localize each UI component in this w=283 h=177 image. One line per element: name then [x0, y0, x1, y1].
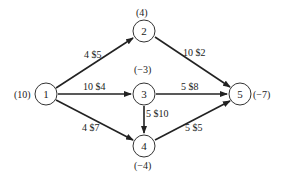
network-diagram: 4 $5 10 $4 4 $7 10 $2 5 $8 5 $10 5 $5 1 …	[0, 0, 283, 177]
node-3: 3	[133, 83, 155, 105]
edge-label-3-4: 5 $10	[146, 108, 169, 119]
edge-label-1-4: 4 $7	[82, 122, 100, 133]
svg-text:4: 4	[141, 140, 147, 152]
supply-label-4: (−4)	[134, 160, 151, 172]
node-1: 1	[35, 83, 57, 105]
node-2: 2	[133, 20, 155, 42]
edge-label-3-5: 5 $8	[181, 81, 199, 92]
edge-1-4	[56, 100, 133, 140]
edge-4-5	[155, 101, 230, 140]
edge-label-1-2: 4 $5	[84, 49, 102, 60]
edge-label-1-3: 10 $4	[83, 81, 106, 92]
edge-label-4-5: 5 $5	[185, 122, 203, 133]
supply-label-2: (4)	[136, 7, 148, 19]
node-5: 5	[229, 83, 251, 105]
supply-label-3: (−3)	[134, 64, 151, 76]
svg-text:3: 3	[141, 88, 147, 100]
edge-label-2-5: 10 $2	[183, 47, 206, 58]
supply-label-1: (10)	[14, 89, 31, 101]
node-4: 4	[133, 135, 155, 157]
svg-text:1: 1	[43, 88, 49, 100]
edge-2-5	[155, 37, 230, 87]
svg-text:5: 5	[237, 88, 243, 100]
supply-label-5: (−7)	[253, 89, 270, 101]
svg-text:2: 2	[141, 25, 147, 37]
